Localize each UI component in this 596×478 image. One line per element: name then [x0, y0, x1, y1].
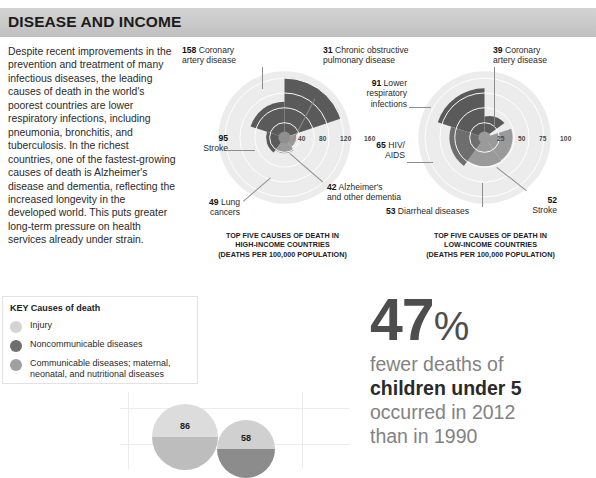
chart-low-income: 25 50 75 100 39 Coronary artery disease …	[385, 45, 596, 260]
label-name: Stroke	[532, 205, 557, 215]
legend-label: Injury	[30, 320, 52, 331]
label-coronary-artery-disease: 39 Coronary artery disease	[493, 45, 589, 66]
grid-line	[302, 392, 303, 469]
statistic-block: 47% fewer deaths of children under 5 occ…	[370, 292, 596, 469]
key-legend-box: KEY Causes of death Injury Noncommunicab…	[2, 296, 198, 384]
circle-value-label: 86	[152, 421, 218, 431]
label-name: Stroke	[203, 143, 228, 153]
caption-line-1: TOP FIVE CAUSES OF DEATH IN	[180, 231, 385, 240]
tick-label: 25	[497, 135, 505, 142]
leader-line	[407, 162, 433, 163]
label-stroke: 95 Stroke	[176, 133, 228, 154]
leader-line	[409, 107, 431, 108]
label-name: Diarrheal diseases	[398, 206, 469, 216]
radial-chart-low-income	[417, 70, 552, 205]
label-diarrheal-diseases: 53 Diarrheal diseases	[341, 206, 469, 216]
intro-paragraph: Despite recent improvements in the preve…	[8, 45, 176, 247]
statistic-line-1: fewer deaths of	[370, 352, 596, 376]
label-name: HIV/	[388, 140, 405, 150]
label-name-cont: cancers	[210, 207, 240, 217]
leader-line	[227, 150, 255, 151]
label-name-cont: respiratory	[366, 88, 407, 98]
label-value: 53	[386, 206, 396, 216]
proportional-circle-58	[217, 420, 275, 478]
bottom-circles-group: 86 58	[120, 392, 350, 469]
tick-label: 80	[319, 135, 327, 142]
label-name-cont: AIDS	[385, 150, 405, 160]
label-value: 65	[376, 140, 386, 150]
caption-line-3: (DEATHS PER 100,000 POPULATION)	[385, 250, 596, 259]
label-value: 158	[182, 45, 196, 55]
tick-label: 100	[560, 135, 572, 142]
proportional-circle-86	[152, 404, 218, 470]
stat-percent-sign: %	[434, 304, 469, 348]
label-value: 42	[327, 182, 337, 192]
label-name: Alzheimer's	[338, 182, 382, 192]
statistic-number: 47%	[370, 292, 596, 355]
label-stroke: 52 Stroke	[513, 195, 557, 216]
label-name-cont2: infections	[371, 99, 407, 109]
circle-value-label: 58	[217, 433, 275, 443]
label-coronary-artery-disease: 158 Coronary artery disease	[182, 45, 278, 66]
tick-label: 40	[298, 135, 306, 142]
label-name: Coronary	[505, 45, 540, 55]
label-lower-respiratory-infections: 91 Lower respiratory infections	[335, 78, 407, 109]
label-name-cont: artery disease	[493, 55, 547, 65]
label-value: 95	[218, 133, 228, 143]
label-name: Lower	[384, 78, 407, 88]
circle-bottom-half	[217, 449, 275, 478]
caption-line-3: (DEATHS PER 100,000 POPULATION)	[180, 250, 385, 259]
label-name: Coronary	[199, 45, 234, 55]
label-name: Lung	[221, 197, 240, 207]
legend-swatch-icon	[10, 321, 22, 333]
key-title: KEY Causes of death	[10, 303, 100, 313]
tick-label: 50	[518, 135, 526, 142]
label-lung-cancers: 49 Lung cancers	[178, 197, 240, 218]
leader-line	[494, 67, 495, 127]
label-hiv-aids: 65 HIV/ AIDS	[335, 140, 405, 161]
page-title: DISEASE AND INCOME	[8, 13, 181, 31]
caption-line-2: HIGH-INCOME COUNTRIES	[180, 240, 385, 249]
label-value: 31	[323, 45, 333, 55]
label-value: 52	[547, 195, 557, 205]
leader-line	[262, 67, 263, 89]
tick-label: 75	[539, 135, 547, 142]
legend-label: Communicable diseases; maternal, neonata…	[30, 358, 196, 381]
label-value: 39	[493, 45, 503, 55]
caption-line-1: TOP FIVE CAUSES OF DEATH IN	[385, 231, 596, 240]
leader-line	[482, 183, 483, 207]
stat-value: 47	[370, 287, 434, 353]
label-value: 91	[372, 78, 382, 88]
statistic-line-2: children under 5	[370, 376, 596, 400]
circle-bottom-half	[152, 437, 218, 470]
statistic-line-3: occurred in 2012	[370, 400, 596, 424]
chart-caption-high-income: TOP FIVE CAUSES OF DEATH IN HIGH-INCOME …	[180, 231, 385, 259]
grid-line	[128, 392, 129, 469]
legend-label: Noncommunicable diseases	[30, 339, 143, 350]
legend-swatch-icon	[10, 340, 22, 352]
statistic-line-4: than in 1990	[370, 424, 596, 448]
caption-line-2: LOW-INCOME COUNTRIES	[385, 240, 596, 249]
chart-caption-low-income: TOP FIVE CAUSES OF DEATH IN LOW-INCOME C…	[385, 231, 596, 259]
label-name-cont: artery disease	[182, 55, 236, 65]
label-value: 49	[209, 197, 219, 207]
legend-swatch-icon	[10, 359, 22, 371]
